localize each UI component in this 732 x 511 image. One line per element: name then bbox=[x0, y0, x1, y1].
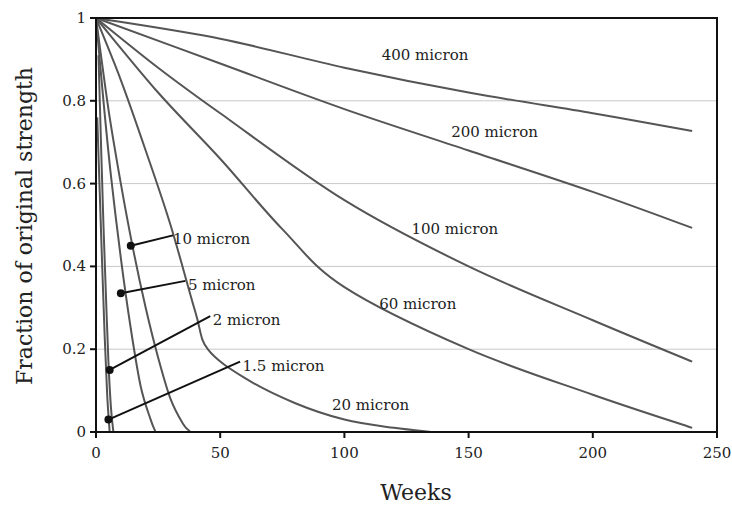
leader-line-10-micron bbox=[131, 235, 173, 245]
series-line-1-5-micron bbox=[97, 117, 109, 432]
leader-dot-10-micron bbox=[127, 242, 135, 250]
label-20-micron: 20 micron bbox=[332, 396, 409, 414]
y-tick-label: 1 bbox=[76, 9, 86, 27]
label-400-micron: 400 micron bbox=[382, 46, 469, 64]
leader-line-5-micron bbox=[121, 281, 186, 293]
label-10-micron: 10 micron bbox=[173, 230, 250, 248]
leader-dot-1-5-micron bbox=[104, 416, 112, 424]
y-tick-label: 0.4 bbox=[62, 257, 86, 275]
y-axis-ticks: 00.20.40.60.81 bbox=[62, 9, 96, 441]
x-axis-title: Weeks bbox=[380, 480, 451, 505]
label-1-5-micron: 1.5 micron bbox=[243, 357, 325, 375]
leader-dot-2-micron bbox=[106, 366, 114, 374]
y-tick-label: 0.6 bbox=[62, 175, 86, 193]
x-tick-label: 0 bbox=[91, 444, 101, 462]
series-lines bbox=[96, 18, 692, 432]
series-labels: 400 micron200 micron100 micron60 micron2… bbox=[173, 46, 538, 414]
series-line-60-micron bbox=[96, 18, 692, 428]
x-tick-label: 200 bbox=[578, 444, 607, 462]
label-5-micron: 5 micron bbox=[188, 276, 256, 294]
label-2-micron: 2 micron bbox=[213, 311, 281, 329]
leader-line-1-5-micron bbox=[108, 362, 240, 420]
y-tick-label: 0.2 bbox=[62, 340, 86, 358]
label-leaders bbox=[104, 235, 240, 423]
leader-dot-5-micron bbox=[117, 289, 125, 297]
y-tick-label: 0.8 bbox=[62, 92, 86, 110]
y-axis-title: Fraction of original strength bbox=[12, 67, 37, 385]
series-line-400-micron bbox=[96, 18, 692, 131]
x-tick-label: 50 bbox=[211, 444, 230, 462]
x-tick-label: 150 bbox=[454, 444, 483, 462]
chart-svg: 050100150200250 00.20.40.60.81 400 micro… bbox=[0, 0, 732, 511]
y-tick-label: 0 bbox=[76, 423, 86, 441]
label-200-micron: 200 micron bbox=[451, 123, 538, 141]
label-100-micron: 100 micron bbox=[411, 220, 498, 238]
x-axis-ticks: 050100150200250 bbox=[91, 432, 731, 462]
label-60-micron: 60 micron bbox=[379, 295, 456, 313]
x-tick-label: 100 bbox=[330, 444, 359, 462]
x-tick-label: 250 bbox=[703, 444, 732, 462]
